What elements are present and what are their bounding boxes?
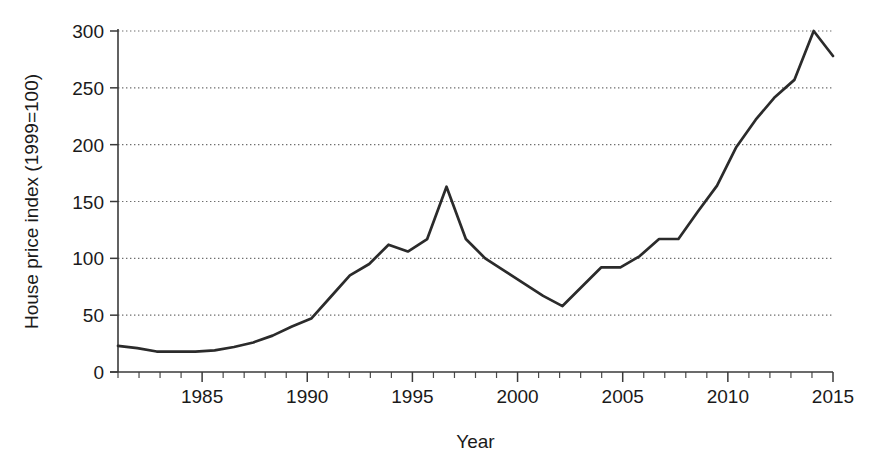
x-axis-major-tick-group <box>202 372 833 382</box>
x-axis-minor-tick-group <box>118 372 812 378</box>
y-tick-label-100: 100 <box>72 248 104 269</box>
x-tick-label-1995: 1995 <box>391 386 433 407</box>
y-axis-title: House price index (1999=100) <box>21 74 42 329</box>
y-tick-label-200: 200 <box>72 135 104 156</box>
y-axis-tick-label-group: 050100150200250300 <box>72 21 104 383</box>
house-price-index-series-line <box>118 31 833 352</box>
y-tick-label-0: 0 <box>93 362 104 383</box>
chart-page: 050100150200250300 198519901995200020052… <box>0 0 894 462</box>
x-tick-label-1985: 1985 <box>181 386 223 407</box>
y-tick-label-300: 300 <box>72 21 104 42</box>
y-axis-tick-group <box>110 31 118 372</box>
x-tick-label-2010: 2010 <box>707 386 749 407</box>
x-tick-label-1990: 1990 <box>286 386 328 407</box>
x-axis-title: Year <box>456 431 495 452</box>
x-tick-label-2005: 2005 <box>602 386 644 407</box>
y-tick-label-250: 250 <box>72 78 104 99</box>
x-tick-label-2015: 2015 <box>812 386 854 407</box>
house-price-index-line-chart: 050100150200250300 198519901995200020052… <box>0 0 894 462</box>
y-tick-label-150: 150 <box>72 192 104 213</box>
y-tick-label-50: 50 <box>83 305 104 326</box>
x-tick-label-2000: 2000 <box>496 386 538 407</box>
gridline-group <box>118 31 833 315</box>
x-axis-tick-label-group: 1985199019952000200520102015 <box>181 386 854 407</box>
